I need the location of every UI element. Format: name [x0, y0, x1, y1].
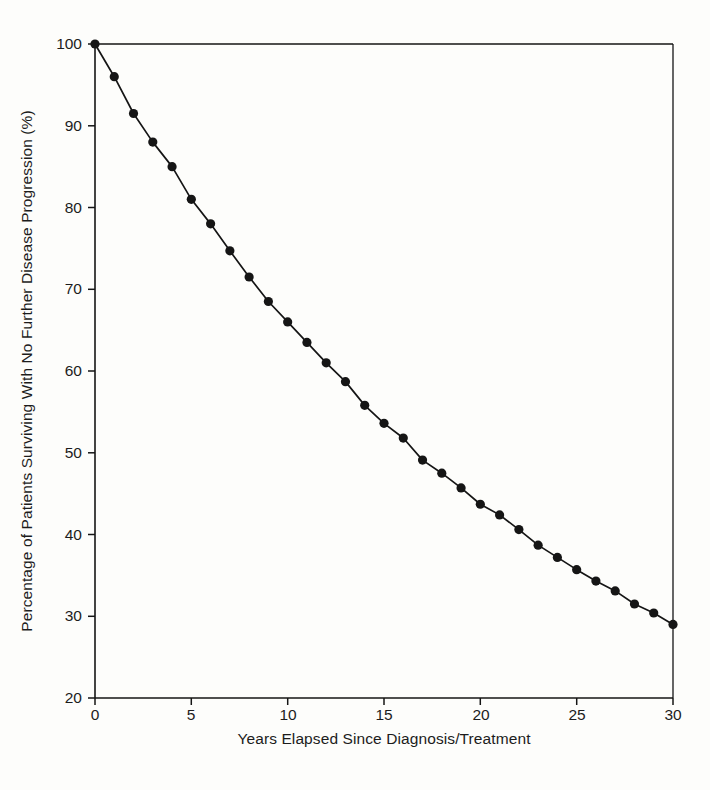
data-point — [649, 608, 658, 617]
survival-curve-markers — [90, 39, 677, 629]
axis-frame — [95, 44, 673, 698]
survival-curve-line — [95, 44, 673, 624]
data-point — [225, 246, 234, 255]
data-point — [245, 272, 254, 281]
data-point — [110, 72, 119, 81]
data-point — [129, 109, 138, 118]
y-axis-ticks — [88, 44, 95, 698]
data-point — [437, 469, 446, 478]
data-point — [495, 510, 504, 519]
data-point — [206, 219, 215, 228]
plot-area — [0, 0, 710, 790]
data-point — [148, 138, 157, 147]
x-axis-ticks — [95, 698, 673, 705]
data-point — [456, 483, 465, 492]
data-point — [341, 377, 350, 386]
data-point — [476, 500, 485, 509]
data-point — [630, 599, 639, 608]
data-point — [187, 195, 196, 204]
data-point — [283, 317, 292, 326]
data-point — [167, 162, 176, 171]
data-point — [514, 525, 523, 534]
data-point — [418, 456, 427, 465]
data-point — [572, 565, 581, 574]
data-point — [379, 419, 388, 428]
data-point — [668, 620, 677, 629]
data-point — [399, 433, 408, 442]
data-point — [264, 297, 273, 306]
data-point — [591, 577, 600, 586]
data-point — [322, 358, 331, 367]
data-point — [553, 553, 562, 562]
data-point — [90, 39, 99, 48]
data-point — [302, 338, 311, 347]
chart-figure: Percentage of Patients Surviving With No… — [0, 0, 710, 790]
data-point — [360, 401, 369, 410]
data-point — [611, 586, 620, 595]
data-point — [534, 541, 543, 550]
